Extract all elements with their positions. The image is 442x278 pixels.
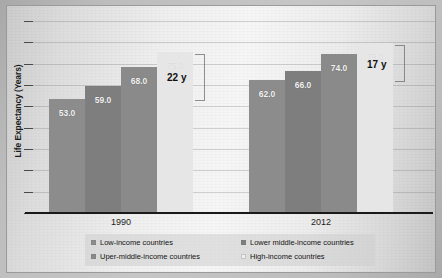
legend-swatch-icon (91, 240, 96, 245)
bar[interactable]: 62.0 (249, 80, 285, 212)
legend-item-label: Uper-middle-income countries (100, 252, 200, 261)
chart-container: Life Expectancy (Years) 53.059.068.075.0… (0, 0, 442, 278)
gap-bracket (395, 45, 405, 81)
bar-value-label: 68.0 (121, 76, 157, 86)
bar-value-label: 62.0 (249, 89, 285, 99)
legend-item[interactable]: Lower middle-income countries (241, 238, 381, 247)
bar[interactable]: 68.0 (121, 67, 157, 212)
bar[interactable]: 66.0 (285, 71, 321, 212)
legend-item[interactable]: High-income countries (241, 252, 381, 261)
bar-value-label: 74.0 (321, 63, 357, 73)
legend-swatch-icon (241, 240, 246, 245)
x-axis-line (25, 212, 433, 214)
x-axis-category-label: 2012 (249, 217, 393, 227)
legend-swatch-icon (91, 254, 96, 259)
bar-series-group: 53.059.068.075.062.066.074.079.0 (31, 20, 435, 212)
chart-legend: Low-income countriesLower middle-income … (85, 234, 375, 266)
gap-bracket (195, 54, 205, 101)
bar[interactable]: 53.0 (49, 99, 85, 212)
bar[interactable]: 59.0 (85, 86, 121, 212)
bar-value-label: 66.0 (285, 80, 321, 90)
legend-swatch-icon (241, 254, 246, 259)
legend-item-label: Low-income countries (100, 238, 173, 247)
gap-value-label: 22 y (167, 72, 186, 83)
gap-value-label: 17 y (367, 59, 386, 70)
x-axis-category-label: 1990 (49, 217, 193, 227)
bar-value-label: 53.0 (49, 108, 85, 118)
bar-value-label: 59.0 (85, 95, 121, 105)
legend-item[interactable]: Low-income countries (91, 238, 241, 247)
legend-item-label: Lower middle-income countries (250, 238, 354, 247)
legend-item-label: High-income countries (250, 252, 325, 261)
bar[interactable]: 74.0 (321, 54, 357, 212)
y-axis-title: Life Expectancy (Years) (11, 46, 25, 176)
legend-item[interactable]: Uper-middle-income countries (91, 252, 241, 261)
chart-frame: Life Expectancy (Years) 53.059.068.075.0… (6, 5, 436, 273)
bar-value-label: 75.0 (157, 61, 193, 71)
plot-area: 53.059.068.075.062.066.074.079.0 22 y17 … (31, 20, 435, 214)
